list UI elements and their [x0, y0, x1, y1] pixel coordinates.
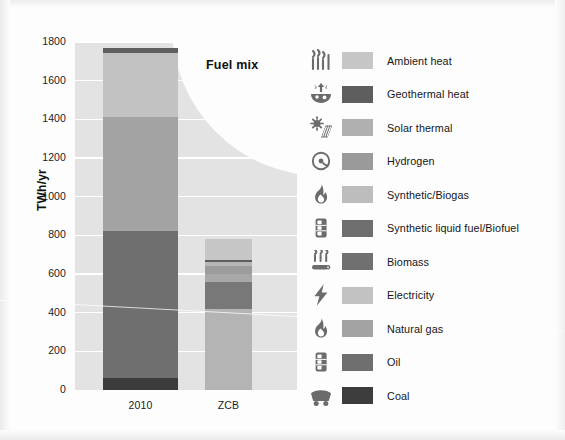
bar-segment-solar-thermal[interactable]	[205, 262, 252, 266]
y-axis-tick-label: 0	[14, 383, 66, 395]
legend-label: Hydrogen	[387, 155, 435, 167]
bar-segment-ambient-heat[interactable]	[205, 239, 252, 260]
atom-icon	[303, 146, 339, 176]
legend-item[interactable]: Ambient heat	[303, 44, 561, 78]
legend-item[interactable]: Coal	[303, 379, 561, 413]
legend-label: Coal	[387, 390, 410, 402]
chart-annotation-title: Fuel mix	[206, 58, 258, 72]
x-axis-label-zcb: ZCB	[185, 399, 272, 411]
y-axis-tick-label: 1800	[14, 35, 66, 47]
legend-swatch	[342, 220, 373, 237]
y-axis-tick-label: 1200	[14, 151, 66, 163]
legend-label: Geothermal heat	[387, 88, 469, 100]
legend-swatch	[342, 186, 373, 203]
y-axis-tick-label: 1000	[14, 190, 66, 202]
legend-item[interactable]: Oil	[303, 346, 561, 380]
y-axis-tick-label: 600	[14, 267, 66, 279]
biomass-log-icon	[303, 247, 339, 277]
geothermal-icon	[303, 79, 339, 109]
legend-item[interactable]: Natural gas	[303, 312, 561, 346]
legend-label: Electricity	[387, 289, 434, 301]
bar-segment-coal[interactable]	[103, 378, 178, 390]
legend-swatch	[342, 253, 373, 270]
page-edge-left	[0, 0, 10, 440]
y-axis-tick-label: 1600	[14, 74, 66, 86]
bar-2010[interactable]	[103, 48, 178, 390]
barrel-icon	[303, 347, 339, 377]
bar-segment-geothermal-heat[interactable]	[205, 260, 252, 262]
solar-panel-icon	[303, 113, 339, 143]
legend-swatch	[342, 354, 373, 371]
y-axis-tick-label: 800	[14, 228, 66, 240]
barrel-icon	[303, 213, 339, 243]
y-axis-tick-label: 400	[14, 306, 66, 318]
x-axis-label-2010: 2010	[83, 399, 198, 411]
legend-label: Synthetic liquid fuel/Biofuel	[387, 222, 519, 234]
y-axis-tick-label: 200	[14, 344, 66, 356]
legend-item[interactable]: Geothermal heat	[303, 78, 561, 112]
bar-segment-biomass[interactable]	[205, 282, 252, 309]
legend-label: Biomass	[387, 256, 429, 268]
bar-segment-synthetic-biogas[interactable]	[205, 274, 252, 282]
page-edge-top	[0, 0, 565, 8]
legend-item[interactable]: Solar thermal	[303, 111, 561, 145]
legend-swatch	[342, 153, 373, 170]
heat-waves-icon	[303, 46, 339, 76]
plot-area	[75, 42, 297, 390]
legend-item[interactable]: Synthetic/Biogas	[303, 178, 561, 212]
legend-swatch	[342, 119, 373, 136]
legend-swatch	[342, 287, 373, 304]
bar-segment-natural-gas[interactable]	[103, 117, 178, 231]
page-edge-bottom	[0, 430, 565, 440]
lightning-bolt-icon	[303, 280, 339, 310]
y-axis-tick-label: 1400	[14, 112, 66, 124]
legend-item[interactable]: Synthetic liquid fuel/Biofuel	[303, 212, 561, 246]
legend-label: Synthetic/Biogas	[387, 189, 469, 201]
bar-zcb[interactable]	[205, 239, 252, 390]
legend-swatch	[342, 320, 373, 337]
legend-label: Oil	[387, 356, 401, 368]
bar-segment-hydrogen[interactable]	[205, 266, 252, 274]
legend-swatch	[342, 387, 373, 404]
legend-label: Solar thermal	[387, 122, 453, 134]
bar-segment-electricity[interactable]	[205, 309, 252, 390]
legend-label: Natural gas	[387, 323, 443, 335]
legend-item[interactable]: Hydrogen	[303, 145, 561, 179]
legend-swatch	[342, 52, 373, 69]
chart-page: TWh/yr 020040060080010001200140016001800…	[0, 0, 565, 440]
flame-icon	[303, 180, 339, 210]
legend: Ambient heat Geothermal heat Solar therm…	[303, 44, 561, 413]
bar-segment-oil[interactable]	[103, 231, 178, 378]
legend-label: Ambient heat	[387, 55, 452, 67]
legend-item[interactable]: Biomass	[303, 245, 561, 279]
flame-icon	[303, 314, 339, 344]
bar-segment-electricity[interactable]	[103, 53, 178, 118]
coal-cart-icon	[303, 381, 339, 411]
legend-item[interactable]: Electricity	[303, 279, 561, 313]
legend-swatch	[342, 86, 373, 103]
bar-segment-biomass[interactable]	[103, 48, 178, 53]
